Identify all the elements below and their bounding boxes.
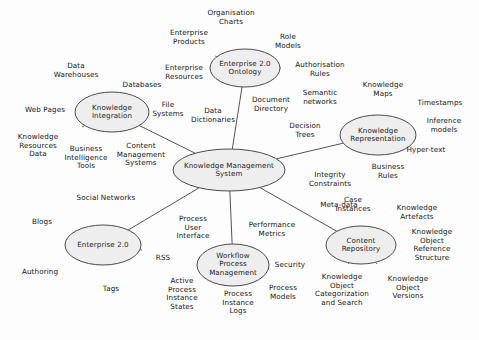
leaf-databases: Databases — [123, 81, 162, 90]
leaf-enterprise-resources: Enterprise Resources — [165, 64, 203, 81]
leaf-knowledge-resources: Knowledge Resources Data — [18, 133, 58, 159]
node-ellipse-onto[interactable] — [210, 49, 280, 87]
leaf-knowledge-object-versions: Knowledge Object Versions — [388, 275, 428, 301]
leaf-knowledge-object-categorization: Knowledge Object Categorization and Sear… — [315, 273, 369, 307]
hub-link-label-kms-onto: Data Dictionaries — [191, 107, 235, 124]
leaf-business-intelligence: Business Intelligence Tools — [64, 145, 107, 171]
leaf-knowledge-artefacts: Knowledge Artefacts — [397, 204, 437, 221]
hub-link-label-kms-ki: Content Management Systems — [117, 142, 165, 168]
hub-edge-kms-kr — [276, 143, 343, 159]
leaf-timestamps: Timestamps — [418, 99, 463, 108]
node-ellipse-kr[interactable] — [340, 115, 416, 155]
hub-edge-kms-wpm — [230, 191, 232, 244]
node-ellipse-cr[interactable] — [326, 226, 396, 264]
leaf-authorisation-rules: Authorisation Rules — [295, 61, 344, 78]
leaf-organisation-charts: Organisation Charts — [207, 9, 254, 26]
node-ellipse-e20[interactable] — [65, 225, 141, 265]
hub-link-label-kms-cr: Meta-data — [320, 201, 358, 210]
leaf-knowledge-maps: Knowledge Maps — [363, 81, 403, 98]
leaf-tags: Tags — [103, 285, 119, 294]
leaf-knowledge-object-ref: Knowledge Object Reference Structure — [412, 228, 452, 262]
leaf-rss: RSS — [156, 254, 170, 263]
concept-map-diagram: Knowledge Management SystemKnowledge Int… — [0, 0, 479, 340]
leaf-role-models: Role Models — [275, 33, 301, 50]
leaf-web-pages: Web Pages — [25, 106, 65, 115]
node-ellipse-ki[interactable] — [75, 92, 149, 132]
node-ellipse-kms[interactable] — [173, 149, 285, 191]
leaf-hyper-text: Hyper-text — [407, 146, 446, 155]
leaf-semantic-networks: Semantic networks — [303, 89, 338, 106]
leaf-data-warehouses: Data Warehouses — [54, 62, 99, 79]
leaf-business-rules: Business Rules — [372, 163, 405, 180]
leaf-active-process-states: Active Process Instance States — [166, 277, 197, 311]
leaf-social-networks: Social Networks — [77, 194, 136, 203]
file-systems-label: File Systems — [152, 101, 183, 118]
hub-link-label-kms-wpm: Performance Metrics — [249, 221, 296, 238]
hub-link-label-kms-e20: Process User Interface — [176, 215, 209, 241]
security-label: Security — [275, 261, 305, 270]
hub-link-label-kms-kr: Decision Trees — [289, 122, 320, 139]
leaf-enterprise-products: Enterprise Products — [170, 29, 208, 46]
leaf-process-instance-logs: Process Instance Logs — [222, 290, 253, 316]
leaf-process-models: Process Models — [269, 284, 297, 301]
leaf-inference-models: Inference models — [427, 117, 462, 134]
document-directory-label: Document Directory — [252, 96, 290, 113]
integrity-constraints-label: Integrity Constraints — [309, 171, 351, 188]
leaf-blogs: Blogs — [32, 218, 52, 227]
node-ellipse-wpm[interactable] — [197, 244, 269, 286]
leaf-authoring: Authoring — [22, 268, 58, 277]
